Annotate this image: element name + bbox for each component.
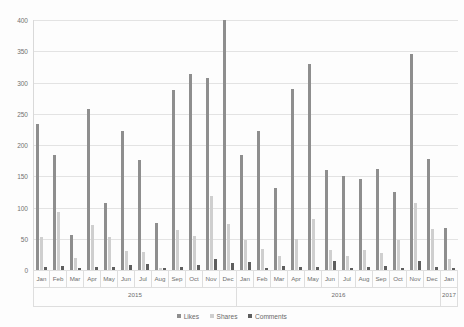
x-axis-tick-label: Dec	[424, 270, 441, 287]
x-axis-band-top-border	[33, 270, 458, 271]
bar-group	[288, 20, 305, 270]
x-axis-tick-label: Nov	[407, 270, 424, 287]
bar-group	[322, 20, 339, 270]
bar-group	[356, 20, 373, 270]
legend-item-shares[interactable]: Shares	[210, 313, 237, 320]
bar-likes	[240, 155, 243, 270]
legend-label: Comments	[255, 313, 287, 320]
x-axis-tick-label: Jan	[33, 270, 50, 287]
legend-swatch-icon	[248, 314, 252, 318]
bar-likes	[257, 131, 260, 270]
bar-shares	[57, 212, 60, 270]
x-axis-tick-label: Oct	[186, 270, 203, 287]
x-axis-tick-label: May	[101, 270, 118, 287]
bar-shares	[176, 230, 179, 270]
legend-label: Likes	[184, 313, 199, 320]
bar-group	[101, 20, 118, 270]
y-axis-tick-label: 200	[0, 142, 28, 149]
bar-group	[135, 20, 152, 270]
x-axis-tick-label: Jul	[339, 270, 356, 287]
x-axis-group-label: 2017	[441, 287, 458, 306]
bar-group	[118, 20, 135, 270]
bar-group	[84, 20, 101, 270]
bar-likes	[53, 155, 56, 270]
bar-likes	[206, 78, 209, 270]
bar-likes	[121, 131, 124, 270]
bar-shares	[227, 224, 230, 270]
bar-comments	[214, 259, 217, 270]
bar-group	[203, 20, 220, 270]
bar-group	[220, 20, 237, 270]
x-axis-tick-label: Mar	[67, 270, 84, 287]
y-axis-tick-label: 250	[0, 110, 28, 117]
bar-shares	[448, 259, 451, 270]
bar-shares	[295, 239, 298, 270]
bar-likes	[189, 74, 192, 270]
y-axis-tick-label: 0	[0, 267, 28, 274]
legend-item-comments[interactable]: Comments	[248, 313, 286, 320]
legend-item-likes[interactable]: Likes	[177, 313, 199, 320]
bar-likes	[104, 203, 107, 270]
bar-shares	[397, 240, 400, 270]
x-axis-tick-label: Jun	[322, 270, 339, 287]
x-axis-tick-label: Feb	[254, 270, 271, 287]
bar-likes	[291, 89, 294, 270]
bar-shares	[414, 203, 417, 271]
bar-shares	[125, 251, 128, 270]
y-axis-tick-label: 150	[0, 173, 28, 180]
bar-shares	[380, 253, 383, 271]
bar-group	[237, 20, 254, 270]
bar-likes	[172, 90, 175, 270]
x-axis-tick-label: Sep	[373, 270, 390, 287]
bar-shares	[363, 250, 366, 270]
x-axis-tick-label: Nov	[203, 270, 220, 287]
x-axis-tick-label: May	[305, 270, 322, 287]
bar-likes	[427, 159, 430, 270]
bar-likes	[138, 160, 141, 270]
bar-likes	[70, 235, 73, 270]
y-axis-tick-label: 300	[0, 79, 28, 86]
bar-likes	[87, 109, 90, 270]
x-axis-tick-label: Oct	[390, 270, 407, 287]
bar-group	[169, 20, 186, 270]
bar-shares	[108, 237, 111, 270]
x-axis-tick-label: Mar	[271, 270, 288, 287]
bar-comments	[231, 263, 234, 271]
y-axis-tick-label: 350	[0, 48, 28, 55]
bar-group	[67, 20, 84, 270]
bar-shares	[210, 196, 213, 270]
bar-group	[50, 20, 67, 270]
x-axis-tick-label: Jan	[441, 270, 458, 287]
bar-shares	[329, 250, 332, 270]
bar-shares	[312, 219, 315, 270]
x-axis-tick-label: Sep	[169, 270, 186, 287]
x-axis-tick-label: Dec	[220, 270, 237, 287]
bar-likes	[342, 176, 345, 270]
bar-likes	[308, 64, 311, 270]
x-axis-group-label: 2016	[237, 287, 441, 306]
bar-shares	[91, 225, 94, 270]
x-axis-tick-label: Jan	[237, 270, 254, 287]
bar-group	[152, 20, 169, 270]
bar-chart: 050100150200250300350400 JanFebMarAprMay…	[0, 0, 464, 327]
x-axis-tick-label: Jul	[135, 270, 152, 287]
y-axis-tick-label: 100	[0, 204, 28, 211]
x-axis-tick-label: Jun	[118, 270, 135, 287]
x-axis-tick-label: Apr	[84, 270, 101, 287]
bar-likes	[444, 228, 447, 271]
bar-comments	[418, 261, 421, 270]
bar-shares	[346, 256, 349, 270]
bar-group	[441, 20, 458, 270]
x-axis-band-bottom-border	[33, 306, 458, 307]
x-axis-label-band: JanFebMarAprMayJunJulAugSepOctNovDecJanF…	[33, 270, 458, 306]
bar-likes	[410, 54, 413, 270]
x-axis-tick-label: Aug	[152, 270, 169, 287]
y-axis-labels: 050100150200250300350400	[0, 0, 30, 327]
bar-group	[424, 20, 441, 270]
bar-comments	[333, 261, 336, 270]
bar-shares	[74, 258, 77, 270]
bar-group	[305, 20, 322, 270]
x-axis-tick-label: Apr	[288, 270, 305, 287]
bar-likes	[36, 124, 39, 270]
bar-likes	[325, 170, 328, 270]
